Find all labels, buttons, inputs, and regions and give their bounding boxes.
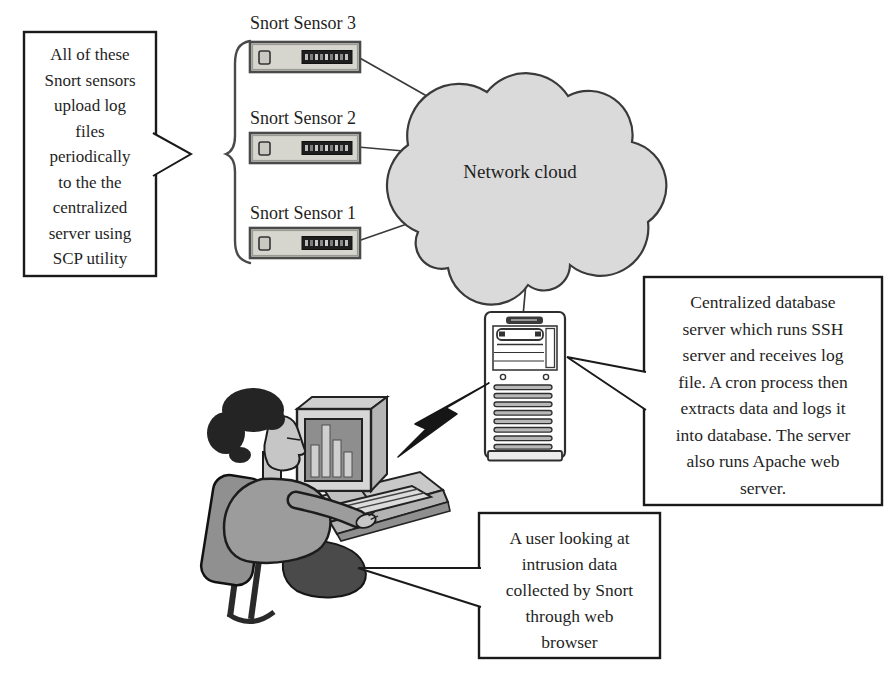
cloud-label: Network cloud <box>450 161 590 183</box>
network-cloud-shape <box>387 73 666 304</box>
diagram-canvas: Snort Sensor 3 Snort Sensor 2 Snort Sens… <box>0 0 891 684</box>
server-tower-icon <box>485 312 565 461</box>
upload-note-text: All of these Snort sensors upload log fi… <box>26 42 154 272</box>
callout-pointer <box>153 133 191 176</box>
snort-sensor-2-device <box>250 133 360 163</box>
lightning-bolt-icon <box>398 383 489 457</box>
curly-brace <box>226 41 250 263</box>
sensor1-label: Snort Sensor 1 <box>250 203 356 224</box>
server-base <box>488 451 562 461</box>
callout-pointer <box>567 357 646 410</box>
snort-sensor-3-device <box>250 42 360 72</box>
sensor2-label: Snort Sensor 2 <box>250 108 356 129</box>
callout-pointer <box>358 568 481 607</box>
torso <box>224 479 330 563</box>
snort-sensor-1-device <box>250 228 360 258</box>
sensor3-label: Snort Sensor 3 <box>250 13 356 34</box>
server-note-text: Centralized database server which runs S… <box>648 289 878 501</box>
user-note-text: A user looking at intrusion data collect… <box>483 525 656 655</box>
